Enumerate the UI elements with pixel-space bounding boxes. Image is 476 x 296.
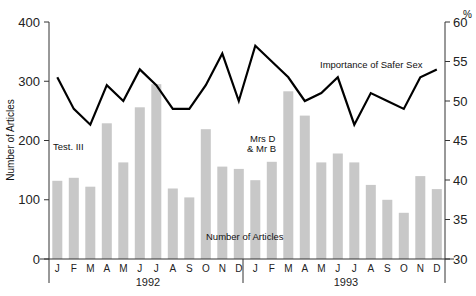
- month-label: F: [269, 263, 275, 274]
- bar: [118, 162, 128, 259]
- month-label: M: [86, 263, 94, 274]
- month-label: J: [253, 263, 258, 274]
- month-label: M: [284, 263, 292, 274]
- bar: [366, 185, 376, 259]
- left-tick-label: 200: [18, 133, 40, 148]
- right-tick-label: 40: [453, 173, 467, 188]
- safer-sex-line: [57, 46, 437, 125]
- bar: [85, 187, 95, 259]
- right-axis-unit: %: [463, 9, 472, 20]
- bar: [283, 91, 293, 259]
- month-label: F: [71, 263, 77, 274]
- month-label: J: [154, 263, 159, 274]
- bar: [184, 197, 194, 259]
- month-label: A: [367, 263, 374, 274]
- legend-safer-sex: Importance of Safer Sex: [320, 59, 423, 70]
- bar: [135, 107, 145, 259]
- left-tick-label: 100: [18, 192, 40, 207]
- month-label: S: [384, 263, 391, 274]
- month-label: D: [433, 263, 440, 274]
- bar: [69, 178, 79, 259]
- right-tick-label: 35: [453, 212, 467, 227]
- month-label: J: [137, 263, 142, 274]
- left-tick-label: 0: [33, 252, 40, 267]
- bar: [52, 181, 62, 259]
- month-label: J: [55, 263, 60, 274]
- dual-axis-chart: 010020030040030354045505560%Number of Ar…: [0, 0, 476, 296]
- bar: [432, 189, 442, 259]
- bar: [415, 176, 425, 259]
- month-label: S: [186, 263, 193, 274]
- year-label: 1993: [334, 276, 358, 288]
- year-label: 1992: [136, 276, 160, 288]
- left-tick-label: 400: [18, 15, 40, 30]
- bar: [102, 123, 112, 259]
- month-label: J: [352, 263, 357, 274]
- bar: [234, 169, 244, 259]
- bar: [349, 162, 359, 259]
- month-label: O: [202, 263, 210, 274]
- annotation-test-iii: Test. III: [53, 141, 84, 152]
- left-tick-label: 300: [18, 74, 40, 89]
- right-tick-label: 55: [453, 54, 467, 69]
- month-label: D: [235, 263, 242, 274]
- month-label: O: [400, 263, 408, 274]
- left-axis-title: Number of Articles: [5, 99, 16, 181]
- bar: [399, 213, 409, 259]
- month-label: N: [219, 263, 226, 274]
- month-label: M: [119, 263, 127, 274]
- bar: [151, 84, 161, 259]
- right-tick-label: 50: [453, 94, 467, 109]
- legend-articles: Number of Articles: [206, 231, 284, 242]
- bar: [316, 162, 326, 259]
- bar: [168, 189, 178, 260]
- right-tick-label: 45: [453, 133, 467, 148]
- annotation-mr-b: & Mr B: [247, 143, 276, 154]
- bar: [267, 162, 277, 259]
- month-label: J: [335, 263, 340, 274]
- bar: [217, 167, 227, 259]
- line-series-safer-sex: [57, 46, 437, 125]
- month-label: N: [417, 263, 424, 274]
- month-label: A: [103, 263, 110, 274]
- chart-canvas: 010020030040030354045505560%Number of Ar…: [0, 0, 476, 296]
- bar: [300, 116, 310, 259]
- month-label: A: [301, 263, 308, 274]
- right-tick-label: 30: [453, 252, 467, 267]
- bar: [250, 180, 260, 259]
- bar: [382, 200, 392, 259]
- bar: [333, 154, 343, 260]
- month-label: A: [169, 263, 176, 274]
- month-label: M: [317, 263, 325, 274]
